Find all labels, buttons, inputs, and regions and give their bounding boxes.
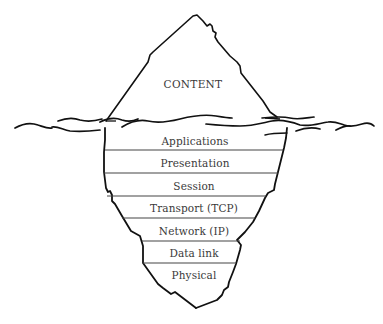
layer-label-presentation: Presentation (160, 157, 229, 169)
layer-label-physical: Physical (172, 269, 217, 281)
water-waves (15, 115, 374, 131)
waterline-right-stub (265, 133, 287, 135)
layer-label-applications: Applications (161, 135, 228, 147)
content-label: CONTENT (164, 78, 223, 90)
layer-label-session: Session (173, 180, 214, 192)
layer-label-network: Network (IP) (159, 225, 229, 237)
iceberg-diagram: CONTENT Applications Presentation Sessio… (0, 0, 383, 324)
iceberg-tip-outline (106, 15, 277, 121)
layer-label-transport: Transport (TCP) (150, 202, 238, 214)
layer-label-data-link: Data link (169, 247, 218, 259)
